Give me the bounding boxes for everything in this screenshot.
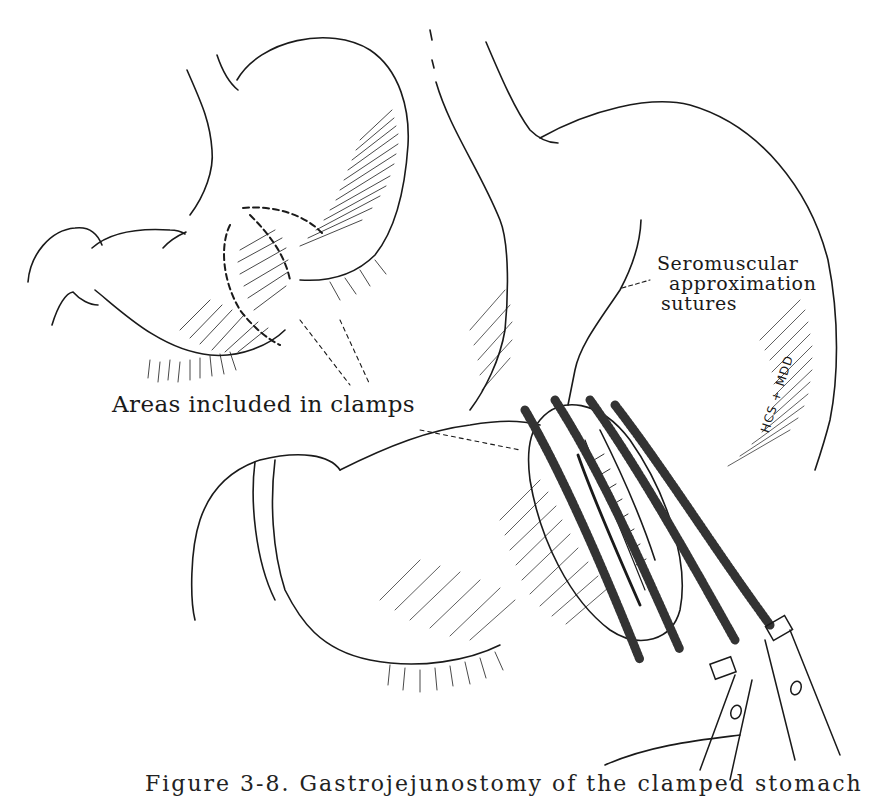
inset-stomach: [28, 38, 408, 385]
sutures-label-line3: sutures: [657, 294, 817, 314]
sutures-label: Seromuscular approximation sutures: [657, 254, 817, 314]
sutures-label-line1: Seromuscular: [657, 254, 817, 274]
clamps-label: Areas included in clamps: [112, 392, 415, 416]
figure-caption: Figure 3-8. Gastrojejunostomy of the cla…: [145, 771, 863, 796]
sutures-label-line2: approximation: [657, 274, 817, 294]
